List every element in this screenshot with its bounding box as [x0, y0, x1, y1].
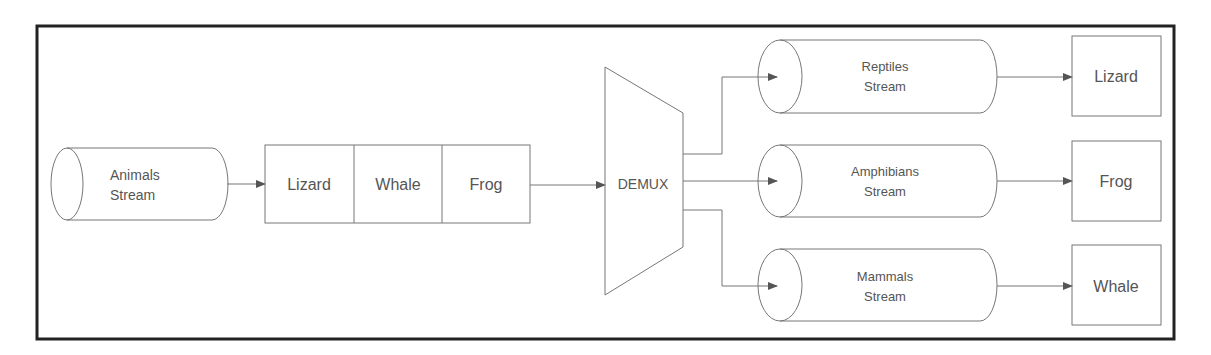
amphibians-stream-label-1: Amphibians: [851, 164, 919, 179]
event-queue: Lizard Whale Frog: [265, 145, 530, 223]
amphibians-stream-label-2: Stream: [864, 184, 906, 199]
output-frog: Frog: [1072, 141, 1161, 221]
queue-item-lizard: Lizard: [287, 176, 331, 193]
output-whale: Whale: [1072, 245, 1161, 325]
demux-block: DEMUX: [605, 67, 683, 295]
amphibians-stream-cylinder: Amphibians Stream: [758, 145, 997, 217]
mammals-stream-label-2: Stream: [864, 289, 906, 304]
animals-stream-label-1: Animals: [110, 167, 160, 183]
animals-stream-label-2: Stream: [110, 187, 155, 203]
queue-item-whale: Whale: [375, 176, 420, 193]
queue-item-frog: Frog: [470, 176, 503, 193]
route-to-reptiles: [683, 77, 777, 154]
route-to-mammals: [683, 210, 777, 286]
mammals-stream-cylinder: Mammals Stream: [758, 249, 997, 321]
reptiles-stream-label-2: Stream: [864, 79, 906, 94]
output-whale-label: Whale: [1093, 278, 1138, 295]
demux-diagram: Animals Stream Lizard Whale Frog DEMUX R…: [0, 0, 1211, 355]
mammals-stream-label-1: Mammals: [857, 269, 914, 284]
reptiles-stream-label-1: Reptiles: [862, 59, 909, 74]
output-lizard: Lizard: [1072, 36, 1161, 116]
reptiles-stream-cylinder: Reptiles Stream: [758, 40, 997, 113]
output-frog-label: Frog: [1100, 173, 1133, 190]
animals-stream-cylinder: Animals Stream: [51, 148, 228, 220]
demux-label: DEMUX: [618, 176, 669, 192]
output-lizard-label: Lizard: [1094, 68, 1138, 85]
